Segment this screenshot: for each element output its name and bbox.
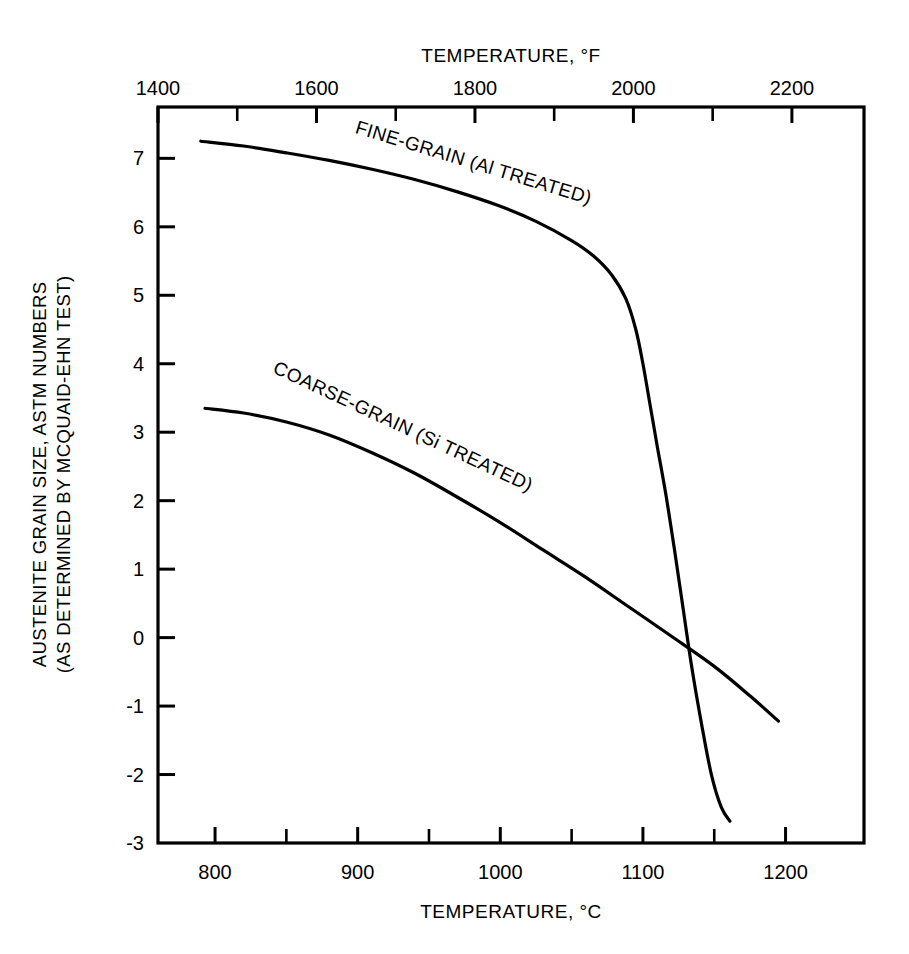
x-tick-label-top: 2000 [611,77,656,99]
chart-figure: 14001600180020002200 800900100011001200 … [0,0,909,954]
curve-series-1 [201,141,730,821]
top-axis-title: TEMPERATURE, °F [421,45,600,66]
y-tick-label: 1 [133,558,144,580]
y-axis-title-line-1: AUSTENITE GRAIN SIZE, ASTM NUMBERS [28,164,52,784]
bottom-axis-title: TEMPERATURE, °C [420,901,602,922]
x-tick-label: 800 [198,861,231,883]
y-tick-label: 0 [133,627,144,649]
y-tick-label: -3 [126,832,144,854]
x-tick-label-top: 1800 [453,77,498,99]
x-tick-label: 1100 [621,861,664,883]
curve-annotations: FINE-GRAIN (Al TREATED)COARSE-GRAIN (Si … [270,116,594,495]
left-axis-tick-labels: 76543210-1-2-3 [126,147,144,854]
top-axis-ticks [158,107,792,123]
x-tick-label: 900 [341,861,374,883]
x-tick-label: 1200 [763,861,808,883]
y-tick-label: 4 [133,353,144,375]
y-tick-label: 3 [133,421,144,443]
x-tick-label-top: 1600 [294,77,339,99]
data-curves [201,141,779,821]
chart-svg: 14001600180020002200 800900100011001200 … [0,0,909,954]
left-axis-ticks [158,158,175,774]
y-axis-title-line-2: (AS DETERMINED BY MCQUAID-EHN TEST) [52,164,76,784]
top-axis-tick-labels: 14001600180020002200 [136,77,814,99]
x-tick-label-top: 2200 [770,77,815,99]
curve-label-2: COARSE-GRAIN (Si TREATED) [270,357,536,496]
bottom-axis-tick-labels: 800900100011001200 [198,861,807,883]
y-tick-label: 2 [133,490,144,512]
x-tick-label-top: 1400 [136,77,181,99]
y-tick-label: -2 [126,764,144,786]
y-tick-label: 5 [133,284,144,306]
curve-label-1: FINE-GRAIN (Al TREATED) [353,116,594,208]
y-tick-label: -1 [126,695,144,717]
y-tick-label: 7 [133,147,144,169]
y-tick-label: 6 [133,216,144,238]
x-tick-label: 1000 [478,861,523,883]
bottom-axis-ticks [215,827,786,843]
y-axis-title: AUSTENITE GRAIN SIZE, ASTM NUMBERS (AS D… [28,164,77,784]
